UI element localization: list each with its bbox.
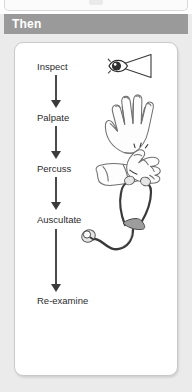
stethoscope-icon xyxy=(81,173,175,257)
previous-panel-ghost-content xyxy=(89,0,103,5)
arrow-inspect-to-palpate xyxy=(50,75,62,109)
step-label-auscultate: Auscultate xyxy=(37,214,81,225)
eye-vision-cone-icon xyxy=(107,53,155,79)
arrow-auscultate-to-reexamine xyxy=(50,229,62,263)
step-label-palpate: Palpate xyxy=(37,112,69,123)
step-label-inspect: Inspect xyxy=(37,61,68,72)
previous-panel-sliver xyxy=(4,0,188,11)
examination-flow-panel: Inspect Palpate xyxy=(14,42,178,376)
step-label-reexamine: Re-examine xyxy=(37,295,88,306)
then-card: Then Inspect Palpate xyxy=(0,14,192,392)
arrow-palpate-to-percuss xyxy=(50,126,62,160)
arrow-percuss-to-auscultate xyxy=(50,177,62,211)
step-label-percuss: Percuss xyxy=(37,163,71,174)
card-header-title: Then xyxy=(12,16,41,32)
card-header-bar: Then xyxy=(4,14,188,34)
